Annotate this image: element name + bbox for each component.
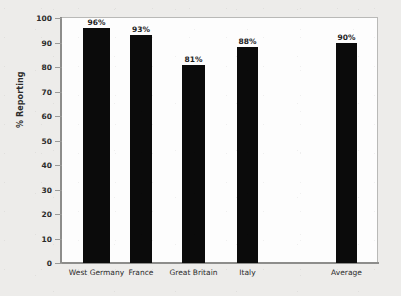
bar [182, 65, 205, 263]
y-tick-label: 70 [6, 87, 52, 96]
bar-value-label: 81% [174, 55, 214, 64]
bar [237, 47, 258, 263]
y-tick-label: 50 [6, 136, 52, 145]
y-tick-label: 10 [6, 234, 52, 243]
y-tick-label: 30 [6, 185, 52, 194]
y-tick-label: 100 [6, 14, 52, 23]
bar-value-label: 93% [121, 25, 161, 34]
y-tick-mark [55, 43, 62, 44]
y-tick-label: 40 [6, 161, 52, 170]
bar [83, 28, 110, 263]
y-tick-mark [55, 165, 62, 166]
y-tick-mark [55, 263, 62, 264]
y-tick-mark [55, 239, 62, 240]
bar [130, 35, 152, 263]
x-category-label: Average [307, 268, 387, 277]
y-tick-label: 90 [6, 38, 52, 47]
bar-chart-figure: % Reporting 1009080706050403020100 96%93… [0, 0, 401, 296]
bar [336, 43, 357, 264]
bar-value-label: 90% [327, 33, 367, 42]
y-tick-mark [55, 190, 62, 191]
y-tick-label: 80 [6, 63, 52, 72]
bar-value-label: 88% [228, 37, 268, 46]
x-category-label: Italy [208, 268, 288, 277]
y-tick-label: 0 [6, 259, 52, 268]
y-tick-mark [55, 214, 62, 215]
y-tick-mark [55, 92, 62, 93]
y-tick-label: 60 [6, 112, 52, 121]
y-tick-label: 20 [6, 210, 52, 219]
y-tick-mark [55, 18, 62, 19]
y-tick-mark [55, 67, 62, 68]
bar-value-label: 96% [77, 18, 117, 27]
y-tick-mark [55, 141, 62, 142]
y-tick-mark [55, 116, 62, 117]
